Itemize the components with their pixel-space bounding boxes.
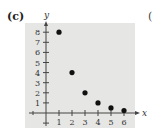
y-tick-label: 1 [35, 99, 40, 108]
y-tick-label: 3 [35, 79, 40, 88]
x-axis-label: x [142, 108, 147, 118]
y-axis-label: y [43, 10, 50, 20]
scatter-chart: xy12345612345678 [0, 0, 154, 139]
data-point [82, 90, 87, 95]
y-tick-label: 8 [35, 28, 40, 37]
data-point [56, 30, 61, 35]
x-tick-label: 3 [82, 118, 87, 127]
x-tick-label: 2 [69, 118, 74, 127]
x-axis-arrow-icon [135, 111, 140, 115]
y-tick-label: 2 [35, 89, 40, 98]
x-tick-label: 1 [56, 118, 61, 127]
plot-background [25, 23, 135, 128]
data-point [95, 100, 100, 105]
x-tick-label: 4 [95, 118, 100, 127]
data-point [121, 108, 126, 113]
y-tick-label: 6 [35, 48, 40, 57]
data-point [108, 105, 113, 110]
data-point [69, 70, 74, 75]
y-tick-label: 5 [35, 59, 40, 68]
x-tick-label: 6 [121, 118, 126, 127]
x-tick-label: 5 [108, 118, 113, 127]
y-tick-label: 4 [35, 69, 40, 78]
y-tick-label: 7 [35, 38, 40, 47]
